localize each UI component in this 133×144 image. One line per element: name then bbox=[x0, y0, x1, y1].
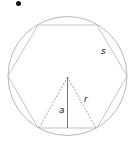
radius-line-left bbox=[39, 77, 68, 128]
bullet-dot bbox=[16, 1, 21, 6]
side-label: s bbox=[101, 46, 106, 56]
hexagon-diagram: s r a bbox=[0, 0, 133, 144]
radius-label: r bbox=[84, 94, 89, 104]
apothem-label: a bbox=[59, 105, 65, 115]
radius-line-right bbox=[68, 77, 97, 128]
